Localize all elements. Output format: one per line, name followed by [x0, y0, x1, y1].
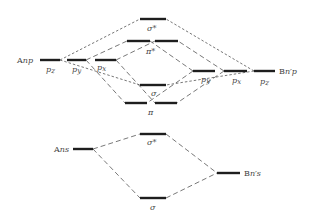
sigma-star-p-label: σ*	[147, 24, 156, 33]
bnp-label: Bn′p	[279, 67, 297, 76]
pi-label: π	[147, 108, 154, 117]
anp-label: Anp	[16, 56, 33, 65]
p-block-connectors	[60, 19, 254, 103]
pi-star-label: π*	[145, 47, 155, 56]
bnp-py-label: py	[201, 75, 211, 85]
sigma-s-label: σ	[150, 203, 156, 212]
bnp-px-label: px	[232, 76, 241, 86]
bnp-pz-label: pz	[260, 77, 269, 87]
sigma-p-label: σ	[151, 89, 157, 98]
sigma-star-s-label: σ*	[147, 138, 156, 147]
anp-px-label: px	[97, 63, 106, 73]
anp-py-label: py	[72, 65, 82, 75]
anp-pz-label: pz	[46, 65, 55, 75]
mo-diagram: Anp pz py px py px pz Bn′p σ* π* σ π Ans…	[0, 0, 309, 218]
ans-label: Ans	[53, 145, 69, 154]
bns-label: Bn′s	[244, 169, 261, 178]
